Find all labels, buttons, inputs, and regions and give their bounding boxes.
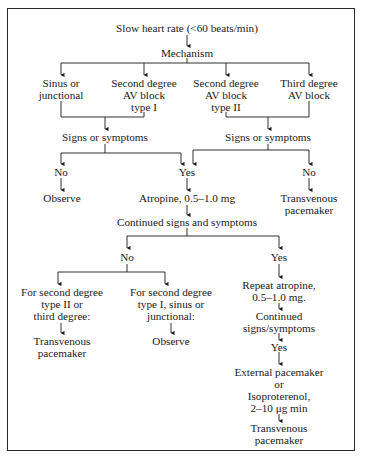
node-no-left: No xyxy=(54,166,68,178)
node-observe-2: Observe xyxy=(152,335,189,347)
node-observe-1: Observe xyxy=(43,192,80,204)
node-third-degree: Third degree AV block xyxy=(280,77,337,101)
node-for-type-2-or-third: For second degree type II or third degre… xyxy=(21,286,103,322)
node-yes-3: Yes xyxy=(271,341,287,353)
node-no-right: No xyxy=(302,166,316,178)
cropped-caption-fragment xyxy=(90,458,280,461)
node-continued-signs: Continued signs and symptoms xyxy=(117,216,257,228)
node-transvenous-pacemaker-2: Transvenous pacemaker xyxy=(34,335,91,359)
node-transvenous-pacemaker-3: Transvenous pacemaker xyxy=(251,422,308,446)
node-external-pacemaker-or-isoproterenol: External pacemaker or Isoproterenol, 2–1… xyxy=(234,366,323,414)
node-continued-signs-2: Continued signs/symptoms xyxy=(243,310,315,334)
node-yes-middle: Yes xyxy=(179,166,195,178)
node-for-type-1-sinus: For second degree type I, sinus or junct… xyxy=(130,286,212,322)
node-yes-2: Yes xyxy=(271,251,287,263)
node-no-2: No xyxy=(120,251,134,263)
node-sinus-junctional: Sinus or junctional xyxy=(39,77,84,101)
node-second-degree-type-1: Second degree AV block type I xyxy=(111,77,177,113)
node-signs-symptoms-left: Signs or symptoms xyxy=(62,131,148,143)
node-second-degree-type-2: Second degree AV block type II xyxy=(193,77,259,113)
node-mechanism: Mechanism xyxy=(161,47,213,59)
node-repeat-atropine: Repeat atropine, 0.5–1.0 mg. xyxy=(242,279,315,303)
node-atropine: Atropine, 0.5–1.0 mg xyxy=(139,192,235,204)
node-signs-symptoms-right: Signs or symptoms xyxy=(225,131,311,143)
node-slow-heart-rate: Slow heart rate (<60 beats/min) xyxy=(116,22,258,34)
node-transvenous-pacemaker-1: Transvenous pacemaker xyxy=(281,192,338,216)
